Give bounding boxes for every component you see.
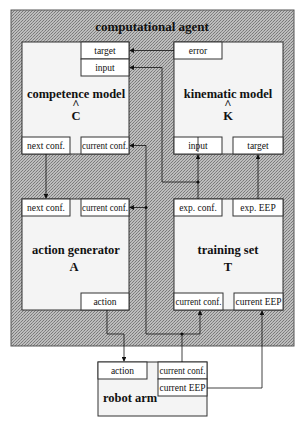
port-label: error [189, 46, 208, 56]
architecture-diagram: computational agent target input compete… [0, 0, 304, 422]
port-label: action [111, 366, 134, 376]
port-label: current conf. [160, 366, 206, 376]
port-label: next conf. [27, 141, 65, 151]
port-label: exp. conf. [179, 203, 217, 213]
module-name: action generator [32, 243, 120, 257]
port-label: current EEP [236, 297, 282, 307]
port-label: current EEP [160, 383, 206, 393]
port-label: next conf. [27, 203, 65, 213]
module-symbol: A [69, 260, 78, 274]
port-label: target [94, 46, 116, 56]
robot-arm: action current conf. current EEP robot a… [98, 362, 207, 416]
port-label: target [247, 141, 269, 151]
module-name: training set [198, 243, 260, 257]
port-label: current conf. [82, 203, 128, 213]
port-label: current conf. [82, 141, 128, 151]
training-set: exp. conf. exp. EEP training set T curre… [174, 199, 283, 310]
kinematic-model: error kinematic model ^ K input target [174, 42, 283, 154]
port-label: input [95, 63, 115, 73]
action-generator: next conf. current conf. action generato… [22, 199, 129, 310]
module-symbol: K [223, 109, 233, 123]
module-symbol: T [224, 260, 233, 274]
port-label: exp. EEP [240, 203, 275, 213]
agent-title: computational agent [95, 19, 209, 34]
port-label: action [93, 297, 116, 307]
module-symbol: C [71, 109, 80, 123]
competence-model: target input competence model ^ C next c… [22, 42, 129, 154]
module-name: robot arm [103, 391, 158, 405]
port-label: current conf. [176, 297, 222, 307]
